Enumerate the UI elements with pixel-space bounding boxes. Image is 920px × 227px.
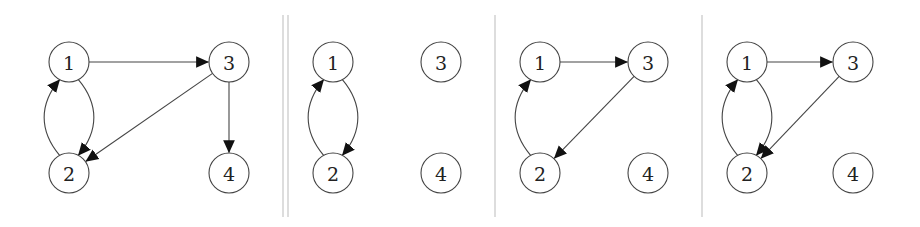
- node-1: 1: [313, 42, 353, 82]
- node-3: 3: [833, 42, 873, 82]
- node-4: 4: [628, 153, 668, 193]
- node-label: 4: [435, 163, 447, 185]
- edge-1-to-2: [78, 80, 93, 156]
- edge-2-to-1: [722, 80, 737, 156]
- edge-1-to-2: [342, 80, 357, 156]
- node-2: 2: [313, 153, 353, 193]
- node-4: 4: [421, 153, 461, 193]
- panel-3: 1234: [515, 42, 668, 193]
- node-1: 1: [727, 42, 767, 82]
- graph-panels: 1234123412341234: [44, 42, 873, 193]
- edge-2-to-1: [308, 80, 323, 156]
- node-label: 2: [327, 163, 339, 185]
- node-label: 1: [534, 52, 546, 74]
- node-2: 2: [727, 153, 767, 193]
- edge-2-to-1: [44, 80, 59, 156]
- edges: [308, 80, 358, 156]
- node-2: 2: [49, 153, 89, 193]
- node-label: 2: [63, 163, 75, 185]
- edge-2-to-1: [515, 80, 530, 156]
- node-4: 4: [833, 153, 873, 193]
- node-label: 1: [327, 52, 339, 74]
- node-label: 3: [223, 52, 235, 74]
- edge-1-to-2: [756, 80, 771, 156]
- node-4: 4: [209, 153, 249, 193]
- panel-4: 1234: [722, 42, 873, 193]
- node-label: 4: [642, 163, 654, 185]
- panel-1: 1234: [44, 42, 249, 193]
- panel-2: 1234: [308, 42, 461, 193]
- node-3: 3: [421, 42, 461, 82]
- edge-3-to-2: [761, 76, 839, 158]
- edge-3-to-2: [554, 76, 634, 158]
- node-label: 2: [741, 163, 753, 185]
- node-label: 3: [435, 52, 447, 74]
- node-1: 1: [49, 42, 89, 82]
- node-label: 3: [642, 52, 654, 74]
- node-3: 3: [209, 42, 249, 82]
- node-label: 4: [847, 163, 859, 185]
- node-3: 3: [628, 42, 668, 82]
- node-label: 1: [741, 52, 753, 74]
- node-label: 4: [223, 163, 235, 185]
- node-label: 3: [847, 52, 859, 74]
- edge-3-to-2: [86, 73, 213, 161]
- node-label: 1: [63, 52, 75, 74]
- graph-diagram-canvas: 1234123412341234: [0, 0, 920, 227]
- node-2: 2: [520, 153, 560, 193]
- node-label: 2: [534, 163, 546, 185]
- node-1: 1: [520, 42, 560, 82]
